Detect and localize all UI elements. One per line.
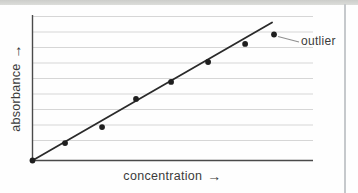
x-axis-label: concentration →	[32, 168, 313, 184]
gridlines	[33, 17, 314, 141]
y-axis-label-text: absorbance	[9, 64, 23, 132]
outlier-point	[271, 32, 277, 38]
data-point	[133, 96, 139, 102]
outlier-annotation: outlier	[301, 34, 336, 48]
figure-absorbance-vs-concentration: absorbance → concentration → outlier	[0, 0, 358, 193]
data-point	[62, 140, 68, 146]
data-points	[30, 32, 277, 164]
x-axis-arrow-icon: →	[207, 169, 221, 183]
trendline-group	[33, 23, 273, 161]
y-axis-label: absorbance →	[0, 15, 32, 161]
data-point	[242, 41, 248, 47]
data-point	[205, 59, 211, 65]
axes	[32, 15, 313, 161]
x-axis-label-text: concentration	[123, 169, 202, 183]
outlier-connector	[278, 36, 299, 42]
data-point	[168, 79, 174, 85]
y-axis-arrow-icon: →	[9, 44, 23, 58]
plot-svg	[0, 0, 358, 193]
best-fit-line	[33, 23, 273, 161]
data-point	[99, 124, 105, 130]
outlier-connector-line	[278, 36, 299, 42]
